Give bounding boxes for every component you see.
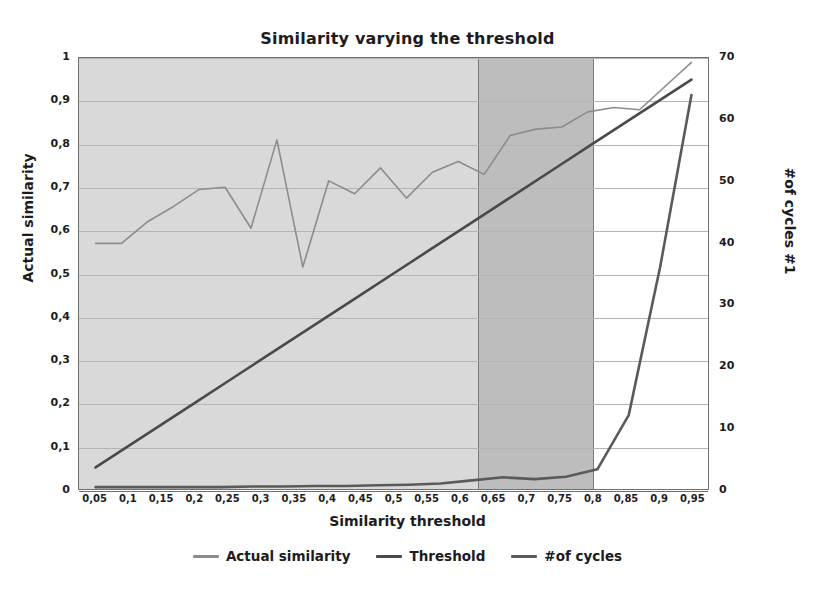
y-axis-left-tick-label: 0,8 — [32, 137, 70, 150]
y-axis-left-tick-label: 0,2 — [32, 396, 70, 409]
chart-title: Similarity varying the threshold — [0, 29, 815, 48]
legend-label: Actual similarity — [226, 548, 351, 564]
y-axis-left-tick-label: 0,3 — [32, 353, 70, 366]
legend-item[interactable]: #of cycles — [511, 548, 622, 564]
legend-item[interactable]: Actual similarity — [193, 548, 351, 564]
gridline — [79, 491, 708, 492]
legend-label: #of cycles — [544, 548, 622, 564]
y-axis-right-tick-label: 40 — [719, 236, 757, 249]
y-axis-right-title: #of cycles #1 — [782, 131, 798, 311]
legend-item[interactable]: Threshold — [376, 548, 485, 564]
y-axis-right-tick-label: 50 — [719, 174, 757, 187]
y-axis-right-tick-label: 0 — [719, 483, 757, 496]
y-axis-left-tick-label: 0,1 — [32, 440, 70, 453]
series-layer — [79, 58, 708, 489]
y-axis-left-tick-label: 0 — [32, 483, 70, 496]
y-axis-right-tick-label: 20 — [719, 359, 757, 372]
y-axis-right-tick-label: 60 — [719, 112, 757, 125]
series-line-of-cycles — [96, 95, 692, 487]
y-axis-left-tick-label: 0,9 — [32, 93, 70, 106]
y-axis-right-tick-label: 30 — [719, 297, 757, 310]
plot-area — [78, 57, 709, 490]
y-axis-left-tick-label: 0,7 — [32, 180, 70, 193]
legend-swatch-icon — [193, 555, 219, 558]
chart-legend: Actual similarityThreshold#of cycles — [0, 548, 815, 564]
y-axis-right-tick-label: 10 — [719, 421, 757, 434]
chart-container: Similarity varying the threshold 00,10,2… — [0, 0, 815, 597]
x-axis-tick-label: 0,95 — [670, 493, 714, 504]
y-axis-left-tick-label: 1 — [32, 50, 70, 63]
y-axis-left-tick-label: 0,6 — [32, 223, 70, 236]
series-line-actual-similarity — [96, 62, 692, 267]
legend-swatch-icon — [511, 555, 537, 558]
y-axis-left-tick-label: 0,5 — [32, 267, 70, 280]
legend-label: Threshold — [409, 548, 485, 564]
x-axis-title: Similarity threshold — [0, 513, 815, 529]
y-axis-left-title: Actual similarity — [20, 128, 36, 308]
series-line-threshold — [96, 80, 692, 468]
y-axis-right-tick-label: 70 — [719, 50, 757, 63]
y-axis-left-tick-label: 0,4 — [32, 310, 70, 323]
legend-swatch-icon — [376, 555, 402, 558]
